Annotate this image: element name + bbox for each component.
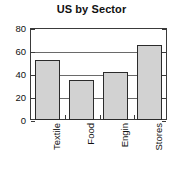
y-axis-tick-label: 0 bbox=[0, 116, 26, 125]
bars-layer bbox=[30, 28, 167, 120]
bar bbox=[103, 72, 128, 120]
y-axis-tick bbox=[31, 121, 35, 122]
x-axis-labels: TextileFoodEnginStores bbox=[30, 123, 167, 170]
x-axis-category-label: Textile bbox=[52, 123, 62, 150]
chart-title: US by Sector bbox=[0, 3, 183, 16]
x-axis-category-label-text: Engin bbox=[120, 123, 130, 147]
y-axis-tick-label: 60 bbox=[0, 47, 26, 56]
x-axis-category-label: Engin bbox=[120, 123, 130, 147]
x-axis-category-label-text: Food bbox=[86, 123, 96, 145]
y-axis-tick-label: 20 bbox=[0, 93, 26, 102]
y-axis-tick-label: 80 bbox=[0, 24, 26, 33]
x-axis-category-label: Food bbox=[86, 123, 96, 145]
x-axis-category-label-text: Stores bbox=[154, 123, 164, 150]
bar bbox=[69, 80, 94, 120]
x-axis-category-label-text: Textile bbox=[52, 123, 62, 150]
y-axis-tick-label: 40 bbox=[0, 70, 26, 79]
bar-chart: US by Sector 020406080 TextileFoodEnginS… bbox=[0, 0, 183, 170]
bar bbox=[35, 60, 60, 120]
y-axis-tick bbox=[162, 121, 166, 122]
bar bbox=[137, 45, 162, 120]
x-axis-category-label: Stores bbox=[154, 123, 164, 150]
